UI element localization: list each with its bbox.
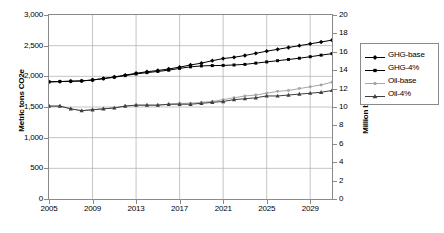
- data-point-diamond: [49, 80, 51, 84]
- data-point-diamond: [319, 40, 323, 44]
- data-point-square: [320, 54, 323, 57]
- data-point-square: [222, 64, 225, 67]
- legend-marker-triangle-icon: [364, 88, 386, 99]
- data-point-circle: [287, 89, 290, 92]
- y-axis-right-tick-label: 6: [339, 139, 373, 148]
- data-point-circle: [320, 83, 323, 86]
- y-axis-right-tick-mark: [333, 199, 337, 200]
- data-point-diamond: [275, 47, 279, 51]
- series-oil-4-: [49, 88, 332, 112]
- legend-item-ghg-4-[interactable]: GHG-4%: [364, 61, 434, 74]
- y-axis-left-tick-label: 0: [9, 194, 43, 203]
- data-point-diamond: [79, 79, 83, 83]
- data-point-square: [254, 62, 257, 65]
- x-axis-tick-label: 2013: [118, 204, 154, 213]
- y-axis-left-tick-label: 3,000: [9, 10, 43, 19]
- y-axis-right-tick-mark: [333, 52, 337, 53]
- data-point-diamond: [58, 79, 62, 83]
- y-axis-right-tick-mark: [333, 70, 337, 71]
- y-axis-left-tick-label: 1,000: [9, 133, 43, 142]
- y-axis-right-tick-mark: [333, 181, 337, 182]
- data-point-diamond: [210, 59, 214, 63]
- data-point-diamond: [199, 61, 203, 65]
- data-point-circle: [309, 85, 312, 88]
- x-axis-tick-label: 2021: [205, 204, 241, 213]
- data-point-diamond: [254, 51, 258, 55]
- data-point-circle: [276, 90, 279, 93]
- data-point-square: [243, 63, 246, 66]
- y-axis-left-tick-mark: [44, 168, 48, 169]
- chart-figure: Metric tons CO2e Million barrels/day 050…: [0, 0, 444, 233]
- y-axis-left-tick-mark: [44, 199, 48, 200]
- data-point-square: [373, 69, 376, 72]
- legend-item-ghg-base[interactable]: GHG-base: [364, 48, 434, 61]
- data-point-diamond: [221, 56, 225, 60]
- y-axis-left-tick-label: 500: [9, 163, 43, 172]
- legend-marker-circle-icon: [364, 75, 386, 86]
- data-point-diamond: [243, 53, 247, 57]
- legend-item-oil-4-[interactable]: Oil-4%: [364, 87, 434, 100]
- data-point-square: [309, 55, 312, 58]
- data-point-circle: [331, 81, 332, 84]
- legend-marker-diamond-icon: [364, 49, 386, 60]
- data-point-diamond: [265, 49, 269, 53]
- data-point-circle: [373, 82, 376, 85]
- x-axis-tick-mark: [93, 200, 94, 204]
- data-point-square: [233, 64, 236, 67]
- legend-marker-square-icon: [364, 62, 386, 73]
- data-point-square: [298, 57, 301, 60]
- x-axis-tick-label: 2017: [162, 204, 198, 213]
- x-axis-tick-label: 2029: [292, 204, 328, 213]
- data-point-diamond: [112, 75, 116, 79]
- y-axis-left-tick-label: 2,000: [9, 71, 43, 80]
- y-axis-right-tick-mark: [333, 125, 337, 126]
- y-axis-right-tick-mark: [333, 15, 337, 16]
- legend-item-label: Oil-4%: [386, 89, 411, 98]
- data-point-diamond: [330, 38, 332, 42]
- series-ghg-4-: [49, 52, 332, 83]
- y-axis-right-tick-label: 8: [339, 120, 373, 129]
- y-axis-left-tick-label: 1,500: [9, 102, 43, 111]
- series-canvas: [49, 15, 332, 199]
- data-point-square: [276, 59, 279, 62]
- x-axis-tick-mark: [310, 200, 311, 204]
- legend-item-oil-base[interactable]: Oil-base: [364, 74, 434, 87]
- data-point-square: [287, 58, 290, 61]
- y-axis-left-tick-mark: [44, 46, 48, 47]
- legend-item-label: Oil-base: [386, 76, 416, 85]
- data-point-diamond: [373, 55, 378, 60]
- x-axis-tick-mark: [267, 200, 268, 204]
- y-axis-right-tick-mark: [333, 89, 337, 90]
- x-axis-tick-mark: [136, 200, 137, 204]
- legend-item-label: GHG-4%: [386, 63, 419, 72]
- y-axis-right-tick-mark: [333, 144, 337, 145]
- x-axis-tick-mark: [180, 200, 181, 204]
- y-axis-right-tick-label: 4: [339, 157, 373, 166]
- data-point-diamond: [90, 78, 94, 82]
- data-point-diamond: [297, 44, 301, 48]
- data-point-square: [265, 60, 268, 63]
- x-axis-tick-label: 2005: [31, 204, 67, 213]
- legend-item-label: GHG-base: [386, 50, 425, 59]
- y-axis-right-tick-mark: [333, 33, 337, 34]
- y-axis-right-tick-label: 18: [339, 28, 373, 37]
- data-point-circle: [298, 87, 301, 90]
- x-axis-tick-mark: [223, 200, 224, 204]
- data-point-triangle: [330, 88, 332, 92]
- y-axis-right-tick-label: 20: [339, 10, 373, 19]
- data-point-diamond: [101, 76, 105, 80]
- x-axis-tick-label: 2025: [249, 204, 285, 213]
- series-line: [49, 90, 332, 110]
- series-line: [49, 40, 332, 82]
- data-point-square: [331, 52, 332, 55]
- chart-legend: GHG-baseGHG-4%Oil-baseOil-4%: [360, 43, 439, 105]
- y-axis-left-tick-mark: [44, 107, 48, 108]
- y-axis-right-tick-mark: [333, 162, 337, 163]
- y-axis-left-tick-mark: [44, 76, 48, 77]
- data-point-diamond: [134, 71, 138, 75]
- x-axis-tick-label: 2009: [75, 204, 111, 213]
- data-point-diamond: [232, 55, 236, 59]
- y-axis-right-tick-label: 0: [339, 194, 373, 203]
- y-axis-right-tick-label: 2: [339, 176, 373, 185]
- data-point-diamond: [69, 79, 73, 83]
